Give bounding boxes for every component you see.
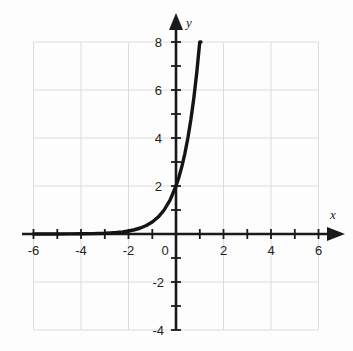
x-tick-label--4: -4 bbox=[75, 243, 87, 258]
y-axis-arrow bbox=[169, 13, 183, 30]
graph-figure: -6 -4 -2 0 2 4 6 8 6 4 2 -2 -4 x y bbox=[0, 0, 353, 351]
y-tick-label-2: 2 bbox=[155, 179, 162, 194]
x-tick-label--6: -6 bbox=[28, 243, 40, 258]
x-tick-label-2: 2 bbox=[220, 243, 227, 258]
y-tick-label--2: -2 bbox=[152, 275, 164, 290]
y-tick-label-4: 4 bbox=[155, 131, 162, 146]
coordinate-plane: -6 -4 -2 0 2 4 6 8 6 4 2 -2 -4 x y bbox=[0, 0, 353, 351]
y-axis-label: y bbox=[184, 15, 192, 30]
x-tick-label--2: -2 bbox=[123, 243, 135, 258]
x-tick-label-6: 6 bbox=[315, 243, 322, 258]
y-tick-label--4: -4 bbox=[152, 323, 164, 338]
x-tick-label-0: 0 bbox=[161, 243, 168, 258]
x-axis-arrow bbox=[327, 227, 345, 241]
y-tick-label-8: 8 bbox=[155, 35, 162, 50]
x-tick-label-4: 4 bbox=[267, 243, 274, 258]
x-axis-label: x bbox=[329, 207, 336, 222]
y-tick-label-6: 6 bbox=[155, 83, 162, 98]
